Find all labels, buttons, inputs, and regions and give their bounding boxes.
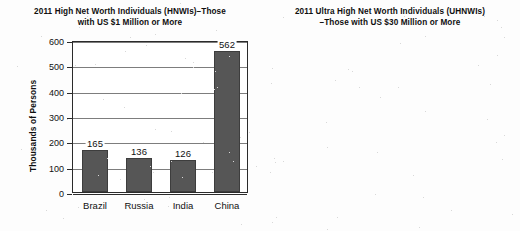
scan-speckle	[41, 36, 42, 37]
chart-title-line1: 2011 Ultra High Net Worth Individuals (U…	[295, 7, 485, 16]
y-tick-label: 100	[49, 164, 64, 173]
scan-speckle	[103, 99, 104, 100]
y-tick-label: 200	[49, 139, 64, 148]
scan-speckle	[229, 56, 230, 57]
y-tick-mark	[67, 194, 72, 195]
scan-speckle	[359, 87, 360, 88]
scan-speckle	[240, 137, 241, 138]
y-tick-label: 500	[49, 63, 64, 72]
scan-speckle	[216, 30, 217, 31]
scan-speckle	[413, 175, 414, 176]
y-axis-title-hnwi: Thousands of Persons	[28, 80, 38, 172]
x-category-label: India	[173, 200, 194, 211]
scan-speckle	[478, 65, 479, 66]
scan-speckle	[377, 152, 378, 153]
scan-speckle	[46, 210, 47, 211]
scan-speckle	[425, 111, 426, 112]
scan-speckle	[21, 149, 22, 150]
scan-speckle	[146, 45, 147, 46]
scan-speckle	[155, 129, 156, 130]
y-tick-mark	[67, 67, 72, 68]
scan-speckle	[155, 34, 156, 35]
scan-speckle	[78, 207, 79, 208]
plot-area-hnwi: 0100200300400500600 165136126562 BrazilR…	[72, 41, 248, 193]
scan-speckle	[75, 65, 76, 66]
scan-speckle	[67, 119, 68, 120]
scan-speckle	[327, 229, 328, 230]
scan-speckle	[203, 142, 204, 143]
scan-speckle	[451, 210, 452, 211]
scan-speckle	[171, 131, 172, 132]
scan-speckle	[193, 67, 194, 68]
gridline	[73, 194, 247, 195]
scan-speckle	[63, 218, 64, 219]
scan-speckle	[169, 197, 170, 198]
scan-speckle	[425, 36, 426, 37]
scan-speckle	[501, 27, 502, 28]
scan-speckle	[274, 158, 275, 159]
scan-speckle	[241, 224, 242, 225]
chart-title-line2: –Those with US $30 Million or More	[268, 17, 512, 28]
scan-speckle	[168, 206, 169, 207]
scan-speckle	[398, 87, 399, 88]
scan-speckle	[233, 161, 234, 162]
scan-speckle	[484, 16, 485, 17]
scan-speckle	[130, 37, 131, 38]
scan-speckle	[335, 80, 336, 81]
figure-page: 2011 High Net Worth Individuals (HNWIs)–…	[0, 0, 520, 231]
scan-speckle	[120, 179, 121, 180]
scan-speckle	[144, 199, 145, 200]
y-tick-label: 400	[49, 88, 64, 97]
scan-speckle	[181, 93, 182, 94]
scan-speckle	[272, 68, 273, 69]
scan-speckle	[337, 217, 338, 218]
bar	[170, 160, 196, 192]
chart-uhnwi: 2011 Ultra High Net Worth Individuals (U…	[260, 0, 520, 231]
scan-speckle	[382, 21, 383, 22]
scan-speckle	[79, 27, 80, 28]
scan-speckle	[327, 147, 328, 148]
scan-speckle	[95, 64, 96, 65]
bar-value-label: 165	[86, 139, 105, 149]
scan-speckle	[487, 119, 488, 120]
bar	[214, 51, 240, 192]
scan-speckle	[107, 158, 108, 159]
scan-speckle	[270, 172, 271, 173]
scan-speckle	[400, 43, 401, 44]
x-category-label: Russia	[124, 200, 153, 211]
scan-speckle	[419, 227, 420, 228]
y-tick-mark	[67, 169, 72, 170]
scan-speckle	[275, 162, 276, 163]
scan-speckle	[217, 87, 218, 88]
y-tick-mark	[67, 42, 72, 43]
scan-speckle	[504, 37, 505, 38]
scan-speckle	[423, 197, 424, 198]
scan-speckle	[215, 71, 216, 72]
scan-speckle	[497, 55, 498, 56]
bar-value-label: 126	[174, 149, 193, 159]
scan-speckle	[185, 58, 186, 59]
scan-speckle	[496, 142, 497, 143]
scan-speckle	[502, 159, 503, 160]
chart-title-line1: 2011 High Net Worth Individuals (HNWIs)–…	[34, 7, 226, 16]
chart-hnwi: 2011 High Net Worth Individuals (HNWIs)–…	[0, 0, 260, 231]
bar	[126, 158, 152, 192]
scan-speckle	[375, 194, 376, 195]
chart-title-uhnwi: 2011 Ultra High Net Worth Individuals (U…	[268, 6, 512, 28]
scan-speckle	[512, 214, 513, 215]
scan-speckle	[326, 122, 327, 123]
scan-speckle	[125, 51, 126, 52]
scan-speckle	[490, 84, 491, 85]
y-tick-mark	[67, 93, 72, 94]
bar-value-label: 136	[130, 147, 149, 157]
bar-series-hnwi: 165136126562	[73, 42, 247, 192]
scan-speckle	[283, 17, 284, 18]
scan-speckle	[182, 177, 183, 178]
scan-speckle	[153, 172, 154, 173]
scan-speckle	[212, 172, 213, 173]
y-tick-mark	[67, 143, 72, 144]
y-tick-label: 0	[59, 190, 64, 199]
y-tick-label: 300	[49, 114, 64, 123]
scan-speckle	[348, 69, 349, 70]
bar	[82, 150, 108, 192]
